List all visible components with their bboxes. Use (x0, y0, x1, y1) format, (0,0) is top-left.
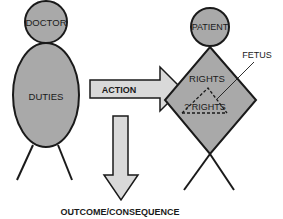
patient-left-leg (184, 154, 210, 190)
doctor-left-leg (17, 145, 33, 180)
patient-head-label: PATIENT (192, 22, 229, 32)
outcome-arrow-shape (104, 116, 138, 200)
patient-right-leg (210, 154, 234, 190)
patient-body-diamond (165, 47, 256, 154)
doctor-body-label: DUTIES (29, 91, 64, 102)
patient-body-label: RIGHTS (189, 73, 225, 84)
fetus-callout-label: FETUS (242, 50, 272, 60)
doctor-patient-diagram: DOCTOR DUTIES ACTION OUTCOME/CONSEQUENCE… (0, 0, 283, 219)
doctor-head-label: DOCTOR (26, 17, 67, 28)
fetus-rights-label: ? RIGHTS (184, 102, 226, 112)
doctor-figure: DOCTOR DUTIES (13, 1, 79, 180)
action-label: ACTION (102, 85, 137, 95)
patient-figure: PATIENT RIGHTS ? RIGHTS FETUS (165, 8, 272, 190)
outcome-arrow (104, 116, 138, 200)
outcome-label: OUTCOME/CONSEQUENCE (60, 207, 179, 217)
doctor-right-leg (58, 145, 72, 180)
